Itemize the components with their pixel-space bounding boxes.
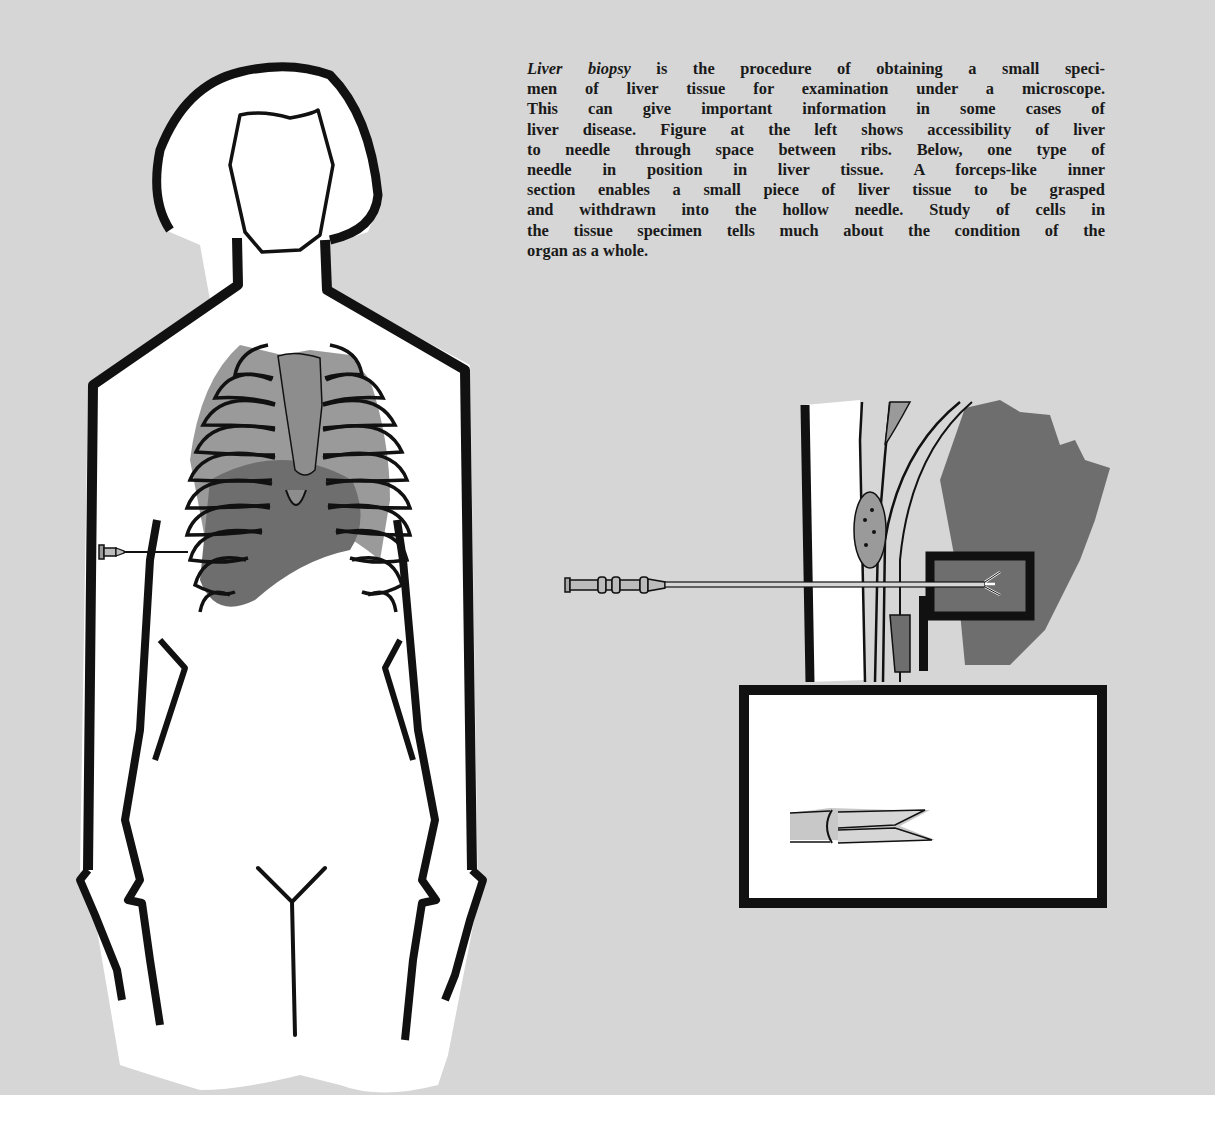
magnified-inset bbox=[744, 690, 1102, 903]
needle-detail-illustration bbox=[0, 0, 1215, 1126]
liver-tissue bbox=[940, 400, 1110, 665]
chest-wall bbox=[805, 400, 972, 682]
